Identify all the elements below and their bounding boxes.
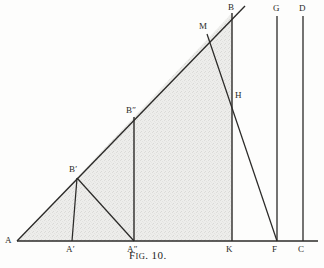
- label-M: M: [199, 22, 207, 31]
- label-B: B: [228, 3, 234, 12]
- figure-10-diagram: A A′ A″ K F C B′ B″ M B H G D FIG. 10.: [0, 0, 324, 268]
- label-D: D: [299, 4, 306, 13]
- label-H: H: [235, 91, 242, 100]
- label-F: F: [272, 245, 277, 254]
- geometry-canvas: [0, 0, 324, 268]
- label-A-prime: A′: [66, 245, 75, 254]
- label-B-double-prime: B″: [126, 106, 136, 115]
- label-G: G: [273, 4, 280, 13]
- figure-caption: FIG. 10.: [129, 249, 167, 261]
- label-A: A: [5, 236, 12, 245]
- label-C: C: [298, 245, 304, 254]
- label-B-prime: B′: [69, 165, 77, 174]
- caption-suffix: . 10.: [145, 249, 166, 261]
- label-K: K: [226, 245, 233, 254]
- caption-smallcaps: IG: [136, 251, 146, 261]
